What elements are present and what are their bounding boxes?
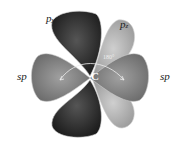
orbital-diagram [0, 0, 180, 148]
label-angle: 180° [103, 54, 114, 60]
label-sp-right: sp [160, 70, 170, 82]
label-sp-left: sp [17, 70, 27, 82]
label-py: py [46, 12, 55, 24]
label-pz: pz [120, 18, 128, 30]
label-carbon: C [91, 70, 99, 82]
